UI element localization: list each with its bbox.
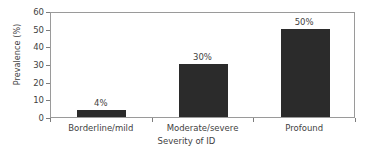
x-axis-tick-mark [152, 118, 153, 122]
bar-value-label: 4% [94, 99, 108, 108]
x-axis-title: Severity of ID [0, 136, 373, 146]
bar [77, 110, 126, 117]
bar [281, 29, 330, 117]
bar-value-label: 30% [193, 53, 212, 62]
y-axis-tick-label: 0 [16, 114, 44, 123]
x-axis-tick-label: Borderline/mild [68, 123, 133, 133]
bar [179, 64, 228, 117]
x-axis-tick-label: Profound [285, 123, 323, 133]
y-axis-tick-label: 10 [16, 96, 44, 105]
y-axis-tick-label: 20 [16, 78, 44, 87]
y-axis-tick-label: 60 [16, 8, 44, 17]
x-axis-tick-mark [355, 118, 356, 122]
x-axis-tick-mark [50, 118, 51, 122]
bar-chart-figure: Prevalence (%) 0102030405060 4%30%50% Bo… [0, 0, 373, 154]
y-axis-tick-label: 30 [16, 61, 44, 70]
x-axis-tick-label: Moderate/severe [167, 123, 239, 133]
y-axis-tick-label: 50 [16, 25, 44, 34]
x-axis-tick-mark [253, 118, 254, 122]
y-axis-tick-labels: 0102030405060 [16, 12, 44, 118]
bar-value-label: 50% [295, 18, 314, 27]
y-axis-tick-label: 40 [16, 43, 44, 52]
